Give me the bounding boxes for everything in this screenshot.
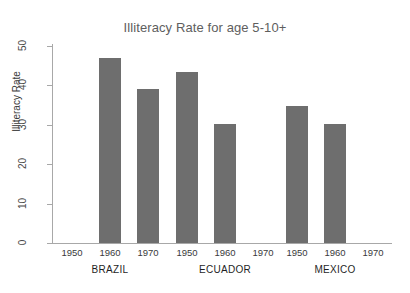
- y-tick-label-wrap: 20: [0, 158, 44, 170]
- y-tick-label-wrap: 30: [0, 119, 44, 131]
- x-tick-label: 1960: [315, 247, 355, 258]
- x-tick-label: 1970: [353, 247, 393, 258]
- plot-area: [52, 46, 392, 243]
- bar: [137, 89, 159, 243]
- y-tick-label-wrap: 10: [0, 198, 44, 210]
- x-axis-group-label: BRAZIL: [50, 264, 170, 275]
- x-tick-label: 1950: [52, 247, 92, 258]
- y-tick-label: 50: [17, 24, 28, 68]
- x-tick-label: 1950: [277, 247, 317, 258]
- y-tick-label: 40: [17, 63, 28, 107]
- x-axis-group-label: ECUADOR: [165, 264, 285, 275]
- chart-title: Illiteracy Rate for age 5-10+: [0, 20, 410, 35]
- bar: [324, 124, 346, 243]
- x-tick-label: 1960: [205, 247, 245, 258]
- y-tick-label: 10: [17, 181, 28, 225]
- x-tick-label: 1970: [128, 247, 168, 258]
- chart-figure: Illiteracy Rate for age 5-10+ Illiteracy…: [0, 0, 410, 293]
- x-tick-label: 1950: [167, 247, 207, 258]
- y-tick-label: 20: [17, 142, 28, 186]
- bar: [176, 72, 198, 243]
- x-axis-line: [52, 243, 392, 244]
- bar: [214, 124, 236, 243]
- bar: [286, 106, 308, 243]
- bar: [99, 58, 121, 243]
- y-tick-label: 30: [17, 102, 28, 146]
- y-tick-mark: [47, 243, 52, 244]
- x-axis-group-label: MEXICO: [275, 264, 395, 275]
- y-tick-label-wrap: 50: [0, 40, 44, 52]
- y-tick-label-wrap: 40: [0, 79, 44, 91]
- y-tick-label: 0: [17, 221, 28, 265]
- y-tick-label-wrap: 0: [0, 237, 44, 249]
- x-tick-label: 1960: [90, 247, 130, 258]
